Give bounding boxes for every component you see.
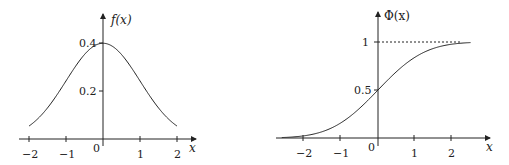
y-tick-label: 0.4 [79,37,97,50]
y-ticks [374,42,378,90]
x-axis-label: x [189,141,196,155]
y-ticks [99,43,103,91]
figure: −2 −1 0 1 2 0.2 0.4 f(x) x −2 −1 0 1 2 [0,0,509,165]
x-tick-label: 0 [368,141,375,154]
y-axis-label: f(x) [110,13,132,27]
x-axis-label: x [486,140,493,154]
y-tick-label: 0.2 [79,85,97,98]
x-tick-label: 2 [174,148,181,161]
y-tick-label: 0.5 [354,84,372,97]
x-tick-label: 1 [411,147,418,160]
x-tick-label: 0 [93,142,100,155]
y-tick-label: 1 [362,36,369,49]
x-tick-label: −2 [22,148,38,161]
x-tick-label: −2 [296,147,312,160]
x-tick-label: 1 [137,148,144,161]
y-axis-label: Φ(x) [384,9,410,23]
x-tick-label: 2 [448,147,455,160]
pdf-chart: −2 −1 0 1 2 0.2 0.4 f(x) x [19,13,196,161]
cdf-chart: −2 −1 0 1 2 0.5 1 Φ(x) x [276,9,493,160]
x-tick-label: −1 [333,147,349,160]
x-tick-label: −1 [59,148,75,161]
